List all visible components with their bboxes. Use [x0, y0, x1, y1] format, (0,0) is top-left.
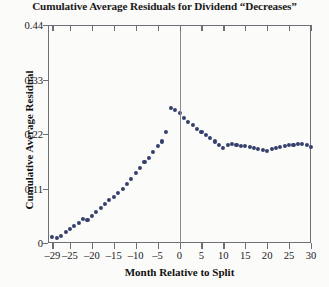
x-axis-tick [201, 243, 202, 249]
x-axis-tick-label: –29 [44, 250, 60, 261]
x-axis-tick-top [114, 25, 115, 31]
x-axis-tick [136, 243, 137, 249]
y-axis-tick [43, 134, 48, 135]
data-point [77, 221, 81, 225]
data-point [164, 130, 168, 134]
data-point [120, 186, 124, 190]
data-point [142, 160, 146, 164]
x-axis-title: Month Relative to Split [48, 266, 311, 278]
x-axis-tick-top [289, 25, 290, 31]
x-axis-tick [52, 243, 53, 249]
x-axis-tick-top [311, 25, 312, 31]
data-point [156, 144, 160, 148]
x-axis-tick-label: 5 [199, 250, 204, 261]
data-point [94, 210, 98, 214]
x-axis-tick [180, 243, 181, 249]
x-axis-tick [114, 243, 115, 249]
x-axis-tick [245, 243, 246, 249]
x-axis-tick-top [201, 25, 202, 31]
data-point [208, 136, 212, 140]
x-axis-tick-top [223, 25, 224, 31]
data-point [186, 120, 190, 124]
x-axis-tick-label: –25 [62, 250, 78, 261]
y-axis-tick [43, 80, 48, 81]
x-axis-tick [311, 243, 312, 249]
y-axis-tick-labels: 00.110.220.330.44 [0, 0, 43, 287]
chart-title: Cumulative Average Residuals for Dividen… [0, 0, 329, 12]
x-axis-tick [70, 243, 71, 249]
x-axis-tick-top [245, 25, 246, 31]
y-axis-tick [43, 25, 48, 26]
data-point [68, 227, 72, 231]
data-point [103, 202, 107, 206]
x-axis-tick [223, 243, 224, 249]
data-point [182, 116, 186, 120]
data-point [309, 145, 313, 149]
data-point [134, 171, 138, 175]
x-axis-tick [92, 243, 93, 249]
x-axis-tick-label: 0 [177, 250, 182, 261]
y-axis-tick-label: 0.11 [25, 183, 43, 194]
data-point [213, 139, 217, 143]
x-axis-tick-label: 15 [240, 250, 251, 261]
x-axis-tick-top [180, 25, 181, 31]
data-point [151, 150, 155, 154]
data-point [112, 195, 116, 199]
x-axis-tick-top [92, 25, 93, 31]
data-point [125, 181, 129, 185]
data-point [85, 218, 89, 222]
x-axis-tick [267, 243, 268, 249]
data-point [116, 191, 120, 195]
data-point [59, 234, 63, 238]
data-point [147, 156, 151, 160]
x-axis-tick-label: –20 [84, 250, 100, 261]
y-axis-tick-label: 0.44 [24, 20, 43, 31]
x-axis-tick-label: 10 [218, 250, 229, 261]
x-axis-tick-label: 30 [306, 250, 317, 261]
y-axis-tick-label: 0.33 [24, 74, 43, 85]
x-axis-tick-label: 20 [262, 250, 273, 261]
data-point [90, 214, 94, 218]
data-point [72, 224, 76, 228]
x-axis-tick-label: 25 [284, 250, 295, 261]
data-point [221, 146, 225, 150]
y-axis-tick [43, 243, 48, 244]
x-axis-tick-label: –15 [106, 250, 122, 261]
y-axis-tick [43, 189, 48, 190]
data-point [107, 198, 111, 202]
x-axis-tick-top [158, 25, 159, 31]
x-axis-tick [289, 243, 290, 249]
x-axis-tick-top [70, 25, 71, 31]
x-axis-tick-top [52, 25, 53, 31]
x-axis-tick-top [267, 25, 268, 31]
data-point [99, 206, 103, 210]
x-axis-tick-label: –5 [152, 250, 163, 261]
x-axis-tick-label: –10 [128, 250, 144, 261]
data-point [191, 123, 195, 127]
y-axis-tick-label: 0.22 [24, 129, 43, 140]
data-point [160, 139, 164, 143]
x-axis-tick-top [136, 25, 137, 31]
chart-screenshot: Cumulative Average Residuals for Dividen… [0, 0, 329, 287]
zero-reference-line [180, 25, 181, 243]
data-point [129, 177, 133, 181]
data-point [138, 166, 142, 170]
data-point [265, 149, 269, 153]
data-point [63, 230, 67, 234]
x-axis-tick [158, 243, 159, 249]
